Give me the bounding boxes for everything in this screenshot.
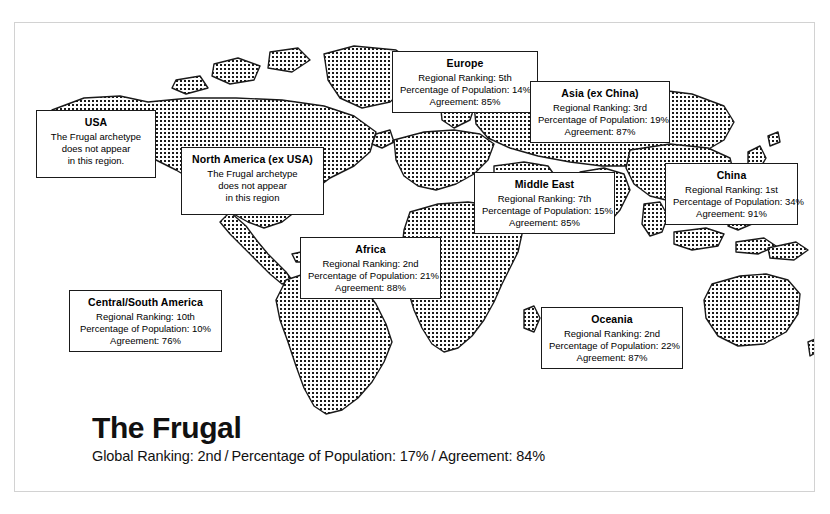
callout-oceania-population: Percentage of Population: 22% [549, 340, 675, 352]
callout-usa-title: USA [44, 116, 148, 129]
callout-central-south-america-agreement: Agreement: 76% [77, 335, 214, 347]
callout-asia[interactable]: Asia (ex China) Regional Ranking: 3rd Pe… [530, 81, 670, 143]
callout-north-america-line-1: The Frugal archetype [189, 168, 316, 180]
callout-central-south-america[interactable]: Central/South America Regional Ranking: … [69, 290, 222, 352]
callout-china-title: China [673, 169, 790, 182]
callout-asia-title: Asia (ex China) [538, 87, 662, 100]
callout-central-south-america-ranking: Regional Ranking: 10th [77, 311, 214, 323]
callout-asia-population: Percentage of Population: 19% [538, 114, 662, 126]
global-agreement-value: Agreement: 84% [438, 448, 545, 464]
global-population-value: Percentage of Population: 17% [231, 448, 428, 464]
callout-usa-line-3: in this region. [44, 155, 148, 167]
callout-oceania-ranking: Regional Ranking: 2nd [549, 328, 675, 340]
callout-north-america-title: North America (ex USA) [189, 153, 316, 166]
callout-middle-east-ranking: Regional Ranking: 7th [482, 193, 607, 205]
callout-oceania-title: Oceania [549, 313, 675, 326]
callout-europe-title: Europe [400, 57, 530, 70]
callout-china-agreement: Agreement: 91% [673, 208, 790, 220]
callout-central-south-america-title: Central/South America [77, 296, 214, 309]
callout-africa-population: Percentage of Population: 21% [308, 270, 433, 282]
global-stats-line: Global Ranking: 2nd/Percentage of Popula… [92, 448, 792, 464]
callout-usa-line-2: does not appear [44, 143, 148, 155]
callout-usa-line-1: The Frugal archetype [44, 131, 148, 143]
callout-oceania[interactable]: Oceania Regional Ranking: 2nd Percentage… [541, 307, 683, 369]
callout-africa-agreement: Agreement: 88% [308, 282, 433, 294]
callout-china-ranking: Regional Ranking: 1st [673, 184, 790, 196]
callout-north-america-line-3: in this region [189, 192, 316, 204]
callout-central-south-america-population: Percentage of Population: 10% [77, 323, 214, 335]
footer: The Frugal Global Ranking: 2nd/Percentag… [92, 412, 792, 464]
callout-middle-east-population: Percentage of Population: 15% [482, 205, 607, 217]
callout-africa-ranking: Regional Ranking: 2nd [308, 258, 433, 270]
stats-separator-1: / [222, 448, 232, 464]
callout-europe-ranking: Regional Ranking: 5th [400, 72, 530, 84]
callout-north-america-line-2: does not appear [189, 180, 316, 192]
callout-middle-east-title: Middle East [482, 178, 607, 191]
callout-europe[interactable]: Europe Regional Ranking: 5th Percentage … [392, 51, 538, 113]
callout-asia-ranking: Regional Ranking: 3rd [538, 102, 662, 114]
callout-europe-agreement: Agreement: 85% [400, 96, 530, 108]
callout-usa[interactable]: USA The Frugal archetype does not appear… [36, 110, 156, 178]
callout-middle-east[interactable]: Middle East Regional Ranking: 7th Percen… [474, 172, 615, 234]
callout-asia-agreement: Agreement: 87% [538, 126, 662, 138]
callout-africa[interactable]: Africa Regional Ranking: 2nd Percentage … [300, 237, 441, 299]
callout-africa-title: Africa [308, 243, 433, 256]
page-title: The Frugal [92, 412, 792, 444]
callout-china-population: Percentage of Population: 34% [673, 196, 790, 208]
stats-separator-2: / [428, 448, 438, 464]
callout-europe-population: Percentage of Population: 14% [400, 84, 530, 96]
global-ranking-value: Global Ranking: 2nd [92, 448, 222, 464]
callout-middle-east-agreement: Agreement: 85% [482, 217, 607, 229]
callout-oceania-agreement: Agreement: 87% [549, 352, 675, 364]
callout-china[interactable]: China Regional Ranking: 1st Percentage o… [665, 163, 798, 225]
callout-north-america[interactable]: North America (ex USA) The Frugal archet… [181, 147, 324, 215]
